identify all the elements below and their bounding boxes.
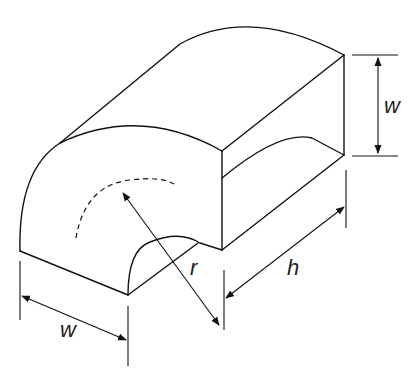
outer-arc-edge <box>20 126 222 251</box>
front-bottom-edge <box>20 251 128 295</box>
top-back-edge <box>60 27 344 143</box>
bend-diagram: w w r h <box>0 0 416 381</box>
labels: w w r h <box>60 93 402 342</box>
right-bottom-edge <box>222 155 344 250</box>
label-w-side: w <box>384 93 402 118</box>
dimensions <box>20 55 398 366</box>
inner-side-curve <box>222 137 344 178</box>
label-r: r <box>190 255 199 280</box>
label-w-front: w <box>60 317 78 342</box>
diagram-canvas: w w r h <box>0 0 416 381</box>
label-h: h <box>287 255 299 280</box>
centerline-arc <box>76 179 174 238</box>
inner-arc-edge <box>128 236 222 295</box>
right-top-edge <box>222 55 344 151</box>
